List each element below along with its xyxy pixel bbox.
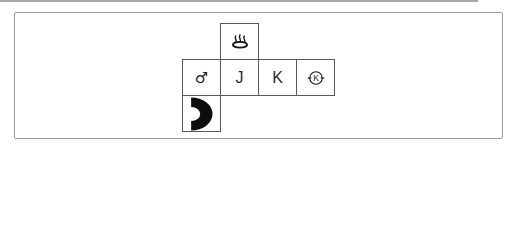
worksheet-page: ♂JKK ① J ② K♂ ③ J ④ ♂K xyxy=(0,0,512,243)
scan-artifact-line xyxy=(0,0,478,2)
net-letter-J: J xyxy=(236,69,244,87)
net-cell-half-donut xyxy=(182,95,221,132)
net-cell-male: ♂ xyxy=(182,59,221,96)
male-icon: ♂ xyxy=(195,69,208,87)
net-cell-circle-k: K xyxy=(296,59,335,96)
net-cell-letter-K: K xyxy=(258,59,297,96)
svg-text:K: K xyxy=(313,73,319,83)
circle-k-icon: K xyxy=(307,71,323,84)
cube-net: ♂JKK xyxy=(182,23,338,133)
circle-k-icon: K xyxy=(306,68,326,88)
question-panel: ♂JKK xyxy=(14,12,503,139)
net-cell-onsen xyxy=(220,23,259,60)
onsen-icon xyxy=(228,31,252,53)
answer-options: ① J ② K♂ ③ J ④ ♂K xyxy=(0,143,512,243)
net-cell-letter-J: J xyxy=(220,59,259,96)
half-donut-shape xyxy=(183,96,220,132)
onsen-icon xyxy=(232,34,246,47)
net-letter-K: K xyxy=(272,69,283,87)
